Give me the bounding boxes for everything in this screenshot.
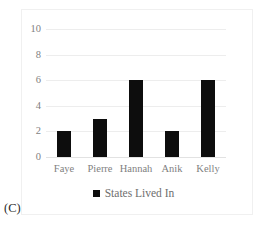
bar[interactable] [57, 131, 71, 157]
x-axis-tick-label: Faye [54, 164, 74, 175]
bar[interactable] [201, 80, 215, 157]
bar[interactable] [129, 80, 143, 157]
y-axis-tick-label: 0 [36, 152, 41, 163]
x-axis-tick-label: Pierre [87, 164, 112, 175]
bar-group: Anik [154, 29, 190, 157]
bar-group: Faye [46, 29, 82, 157]
legend-swatch-icon [93, 190, 100, 197]
chart-frame: 0246810FayePierreHannahAnikKelly [21, 9, 253, 215]
gridline-0 [46, 157, 226, 158]
bar-group: Kelly [190, 29, 226, 157]
bar-group: Hannah [118, 29, 154, 157]
x-axis-tick-label: Kelly [196, 164, 219, 175]
y-axis-tick-label: 10 [31, 24, 42, 35]
y-axis-tick-label: 6 [36, 75, 41, 86]
x-axis-tick-label: Hannah [120, 164, 153, 175]
bar-group: Pierre [82, 29, 118, 157]
panel-caption: (C) [4, 202, 21, 215]
y-axis-tick-label: 4 [36, 101, 41, 112]
x-axis-tick-label: Anik [162, 164, 183, 175]
bar[interactable] [165, 131, 179, 157]
bar[interactable] [93, 119, 107, 157]
y-axis-tick-label: 2 [36, 126, 41, 137]
legend-entry-label: States Lived In [105, 188, 175, 200]
chart-legend: States Lived In [0, 188, 267, 200]
y-axis-tick-label: 8 [36, 49, 41, 60]
plot-area: 0246810FayePierreHannahAnikKelly [46, 29, 226, 157]
figure-panel: 0246810FayePierreHannahAnikKelly States … [0, 0, 267, 230]
